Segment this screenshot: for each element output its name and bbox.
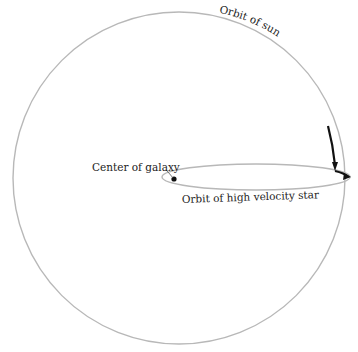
center-of-galaxy-label: Center of galaxy (92, 161, 180, 173)
sun-motion-arrow (328, 126, 335, 165)
star-orbit-label: Orbit of high velocity star (182, 188, 321, 205)
diagram-svg: Orbit of sun Center of galaxy Orbit of h… (0, 0, 358, 352)
galactic-orbit-diagram: Orbit of sun Center of galaxy Orbit of h… (0, 0, 358, 352)
star-orbit-ellipse (162, 164, 350, 190)
sun-orbit-circle (13, 12, 345, 344)
sun-orbit-label: Orbit of sun (218, 3, 283, 39)
